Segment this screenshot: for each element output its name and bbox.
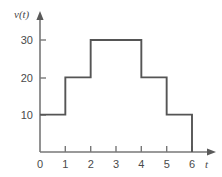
step-function-line	[40, 40, 192, 152]
y-tick-label-30: 30	[21, 34, 33, 46]
y-axis-tick-labels-group: 30 20 10	[21, 34, 33, 121]
x-tick-label-6: 6	[189, 158, 195, 170]
x-tick-label-2: 2	[88, 158, 94, 170]
axis-titles-group: v(t) t	[14, 8, 209, 170]
y-axis-ticks-group	[40, 40, 46, 115]
y-axis-arrowhead-icon	[36, 11, 43, 20]
x-tick-label-5: 5	[164, 158, 170, 170]
x-tick-label-0: 0	[37, 158, 43, 170]
chart-canvas: 30 20 10 0 1 2 3 4 5 6 v(t) t	[0, 0, 222, 177]
x-axis-title: t	[205, 158, 209, 170]
x-axis-tick-labels-group: 0 1 2 3 4 5 6	[37, 158, 195, 170]
velocity-step-chart-figure: 30 20 10 0 1 2 3 4 5 6 v(t) t	[0, 0, 222, 177]
y-axis-title: v(t)	[14, 8, 30, 21]
x-tick-label-3: 3	[113, 158, 119, 170]
axes-group	[36, 11, 216, 156]
y-tick-label-10: 10	[21, 109, 33, 121]
x-axis-ticks-group	[65, 146, 192, 152]
x-tick-label-4: 4	[138, 158, 144, 170]
x-tick-label-1: 1	[62, 158, 68, 170]
x-axis-arrowhead-icon	[207, 148, 216, 155]
y-tick-label-20: 20	[21, 72, 33, 84]
